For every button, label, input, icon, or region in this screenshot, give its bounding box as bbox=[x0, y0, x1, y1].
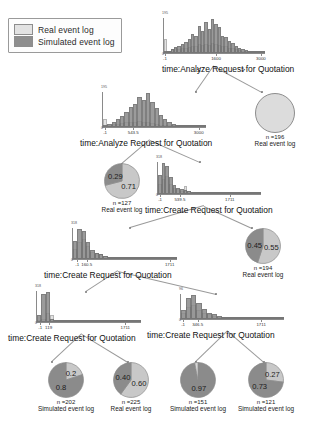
leaf-source: Real event log bbox=[100, 405, 162, 412]
histogram-node-create-2[interactable]: 3180-1160.51711 time:Create Request for … bbox=[72, 228, 177, 260]
leaf-node-n151[interactable]: 0.97 n =151 Simulated event log bbox=[166, 362, 230, 412]
legend-swatch-simulated bbox=[14, 36, 33, 47]
legend: Real event log Simulated event log bbox=[8, 18, 122, 53]
histogram-plot: 3180-11191711 bbox=[36, 291, 141, 323]
pie-slice-label: 0.8 bbox=[56, 382, 67, 391]
pie-holder: 0.550.45 bbox=[245, 228, 281, 264]
histogram-y-max-label: 318 bbox=[71, 221, 77, 225]
histogram-x-tick-label: 539.5 bbox=[174, 197, 185, 202]
histogram-node-create-1[interactable]: 3180-1539.51711 time:Create Request for … bbox=[157, 162, 261, 195]
legend-swatch-real bbox=[14, 24, 33, 35]
histogram-y-max-label: 318 bbox=[35, 284, 41, 288]
histogram-bars bbox=[158, 162, 261, 194]
legend-label-real: Real event log bbox=[38, 25, 94, 35]
leaf-source: Simulated event log bbox=[166, 405, 230, 412]
histogram-title: time:Analyze Request for Quotation bbox=[80, 138, 212, 148]
histogram-bar bbox=[173, 228, 177, 259]
leaf-node-n121[interactable]: 0.270.73 n =121 Simulated event log bbox=[234, 362, 298, 412]
pie-holder: 0.20.8 bbox=[48, 362, 84, 398]
histogram-bar-simulated bbox=[261, 51, 264, 53]
leaf-source: Real event log bbox=[92, 206, 152, 213]
histogram-bars bbox=[181, 294, 284, 319]
histogram-node-create-4[interactable]: 960-1346.51711 time:Create Request for Q… bbox=[180, 294, 284, 320]
histogram-plot: 1950-1543.53000 bbox=[102, 92, 206, 128]
leaf-circle bbox=[255, 93, 295, 133]
histogram-bars bbox=[164, 18, 265, 53]
histogram-x-tick-label: 346.5 bbox=[192, 322, 203, 327]
histogram-bar bbox=[257, 162, 261, 194]
histogram-bar-simulated bbox=[257, 192, 261, 194]
histogram-x-tick-label: 543.5 bbox=[128, 130, 139, 135]
pie-holder: 0.710.29 bbox=[104, 163, 140, 199]
histogram-node-analyze-1[interactable]: 1950-116003000 time:Analyze Request for … bbox=[163, 18, 265, 54]
pie-holder: 0.270.73 bbox=[248, 362, 284, 398]
leaf-node-n202[interactable]: 0.20.8 n =202 Simulated event log bbox=[34, 362, 98, 412]
histogram-x-tick-label: 1711 bbox=[225, 197, 234, 202]
histogram-node-create-3[interactable]: 3180-11191711 time:Create Request for Qu… bbox=[36, 291, 141, 323]
histogram-bars bbox=[73, 228, 177, 259]
histogram-title: time:Analyze Request for Quotation bbox=[162, 64, 294, 74]
leaf-source: Real event log bbox=[233, 271, 293, 278]
histogram-bar bbox=[137, 291, 141, 322]
histogram-x-tick-label: 1711 bbox=[165, 262, 174, 267]
pie-chart bbox=[48, 362, 84, 398]
legend-label-simulated: Simulated event log bbox=[38, 37, 115, 47]
histogram-bars bbox=[37, 291, 141, 322]
pie-chart bbox=[248, 362, 284, 398]
histogram-plot: 3180-1160.51711 bbox=[72, 228, 177, 260]
histogram-x-axis bbox=[180, 319, 284, 320]
histogram-title: time:Create Request for Quotation bbox=[44, 270, 172, 280]
pie-slice-label: 0.73 bbox=[252, 381, 267, 390]
pie-slice-label: 0.71 bbox=[121, 182, 136, 191]
pie-slice-label: 0.45 bbox=[247, 240, 262, 249]
histogram-x-tick-label: -1 bbox=[103, 130, 107, 135]
histogram-bars bbox=[103, 92, 206, 127]
pie-slice-label: 0.27 bbox=[265, 370, 280, 379]
histogram-plot: 3180-1539.51711 bbox=[157, 162, 261, 195]
leaf-node-n196[interactable]: n =196 Real event log bbox=[246, 93, 304, 147]
pie-slice-label: 0.29 bbox=[108, 171, 123, 180]
histogram-y-max-label: 195 bbox=[101, 85, 107, 89]
leaf-node-n194[interactable]: 0.550.45 n =194 Real event log bbox=[233, 228, 293, 278]
histogram-x-tick-label: -1 bbox=[181, 322, 185, 327]
histogram-x-tick-label: 1711 bbox=[256, 322, 265, 327]
histogram-y-max-label: 96 bbox=[179, 287, 183, 291]
histogram-bar bbox=[202, 92, 206, 127]
histogram-title: time:Create Request for Quotation bbox=[145, 205, 273, 215]
pie-slice-label: 0.97 bbox=[191, 384, 206, 393]
histogram-x-tick-label: 3000 bbox=[194, 130, 204, 135]
leaf-source: Simulated event log bbox=[34, 405, 98, 412]
histogram-plot: 1950-116003000 bbox=[163, 18, 265, 54]
histogram-x-axis bbox=[72, 259, 177, 260]
legend-item-real: Real event log bbox=[14, 24, 115, 35]
histogram-plot: 960-1346.51711 bbox=[180, 294, 284, 320]
pie-holder bbox=[246, 93, 304, 133]
pie-slice-label: 0.55 bbox=[264, 243, 279, 252]
histogram-node-analyze-2[interactable]: 1950-1543.53000 time:Analyze Request for… bbox=[102, 92, 206, 128]
histogram-y-max-label: 195 bbox=[162, 11, 168, 15]
histogram-bar-simulated bbox=[173, 257, 177, 259]
histogram-title: time:Create Request for Quotation bbox=[147, 330, 275, 340]
histogram-x-tick-label: 160.5 bbox=[81, 262, 92, 267]
pie-holder: 0.600.40 bbox=[113, 362, 149, 398]
histogram-x-axis bbox=[157, 194, 261, 195]
leaf-node-n127[interactable]: 0.710.29 n =127 Real event log bbox=[92, 163, 152, 213]
leaf-node-n225[interactable]: 0.600.40 n =225 Real event log bbox=[100, 362, 162, 412]
histogram-x-tick-label: -1 bbox=[75, 262, 79, 267]
leaf-source: Simulated event log bbox=[234, 405, 298, 412]
histogram-bar-simulated bbox=[279, 317, 284, 319]
histogram-x-axis bbox=[163, 53, 265, 54]
histogram-x-tick-label: -1 bbox=[38, 325, 42, 330]
histogram-bar-simulated bbox=[137, 320, 141, 322]
histogram-x-tick-label: -1 bbox=[158, 197, 162, 202]
leaf-source: Real event log bbox=[246, 140, 304, 147]
histogram-title: time:Create Request for Quotation bbox=[8, 333, 136, 343]
histogram-x-tick-label: 119 bbox=[45, 325, 52, 330]
decision-tree-canvas: Real event log Simulated event log ≤> 19… bbox=[0, 0, 318, 435]
pie-slice-label: 0.2 bbox=[66, 369, 77, 378]
histogram-bar bbox=[279, 294, 284, 319]
histogram-x-tick-label: -1 bbox=[163, 56, 167, 61]
histogram-x-axis bbox=[102, 127, 206, 128]
legend-item-simulated: Simulated event log bbox=[14, 36, 115, 47]
pie-slice-label: 0.40 bbox=[116, 373, 131, 382]
